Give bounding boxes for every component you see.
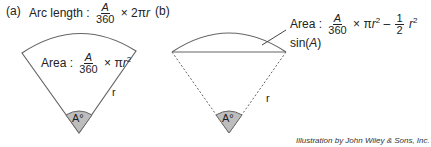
radius-label-a: r [112, 86, 116, 98]
fraction-half: 12 [395, 13, 403, 36]
radius-label-b: r [266, 92, 270, 104]
fraction: A360 [95, 2, 115, 25]
segment-area-formula: Area : A360 × πr2 – 12 r2 sin(A) [290, 13, 431, 50]
panel-a-tag: (a) [6, 4, 21, 18]
angle-label-a: A° [72, 112, 84, 124]
fraction: A360 [327, 13, 347, 36]
fraction: A360 [78, 52, 98, 75]
arc-length-formula: Arc length : A360 × 2πr [29, 2, 150, 25]
illustration-credit: Illustration by John Wiley & Sons, Inc. [296, 136, 430, 145]
angle-label-b: A° [222, 112, 234, 124]
sector-area-formula: Area : A360 × πr2 [41, 52, 131, 75]
panel-b-tag: (b) [155, 4, 170, 18]
arc-length-prefix: Arc length : [29, 6, 93, 20]
